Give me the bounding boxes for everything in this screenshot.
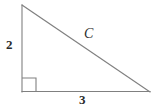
triangle-hypotenuse xyxy=(22,5,150,92)
hypotenuse-label: C xyxy=(84,27,93,41)
right-triangle-figure: 2 C 3 xyxy=(0,0,154,112)
horizontal-leg-label: 3 xyxy=(79,93,86,106)
triangle-drawing xyxy=(0,0,154,112)
right-angle-marker-icon xyxy=(22,78,36,92)
vertical-leg-label: 2 xyxy=(6,38,13,51)
